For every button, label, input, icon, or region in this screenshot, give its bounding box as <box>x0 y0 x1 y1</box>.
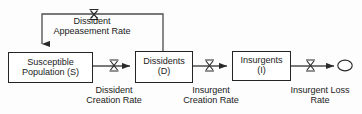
flow-insurgent-creation-line2: Creation Rate <box>183 95 238 105</box>
flow-dissident-creation-line2: Creation Rate <box>86 95 141 105</box>
flow-insurgent-loss-line1: Insurgent Loss <box>291 85 350 95</box>
stock-susceptible-population[interactable]: Susceptible Population (S) <box>8 52 93 83</box>
stock-insurgents-line2: (I) <box>257 66 265 76</box>
stock-and-flow-diagram: Susceptible Population (S) Dissidents (D… <box>0 0 362 114</box>
flow-appeasement-line1: Dissident <box>53 16 130 26</box>
flow-insurgent-loss-line2: Rate <box>291 95 350 105</box>
flow-insurgent-creation-line1: Insurgent <box>183 85 238 95</box>
flow-label-dissident-appeasement-rate[interactable]: Dissident Appeasement Rate <box>53 16 130 36</box>
stock-susceptible-line2: Population (S) <box>22 68 79 78</box>
stock-insurgents[interactable]: Insurgents (I) <box>232 51 291 81</box>
stock-dissidents[interactable]: Dissidents (D) <box>135 51 193 83</box>
stock-dissidents-line2: (D) <box>158 67 170 77</box>
flow-label-dissident-creation-rate[interactable]: Dissident Creation Rate <box>86 85 141 105</box>
flow-label-insurgent-creation-rate[interactable]: Insurgent Creation Rate <box>183 85 238 105</box>
flow-label-insurgent-loss-rate[interactable]: Insurgent Loss Rate <box>291 85 350 105</box>
flow-dissident-creation-line1: Dissident <box>86 85 141 95</box>
flow-appeasement-line2: Appeasement Rate <box>53 26 130 36</box>
cloud-icon-insurgent-loss-sink <box>338 60 352 71</box>
